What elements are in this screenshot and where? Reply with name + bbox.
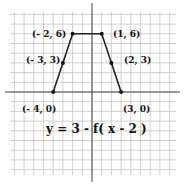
- point-label-neg4-0: (- 4, 0): [22, 104, 56, 115]
- point-label-neg3-3: (- 3, 3): [26, 55, 60, 66]
- point-label-3-0: (3, 0): [123, 104, 150, 115]
- point-label-1-6: (1, 6): [113, 29, 140, 40]
- point-label-2-3: (2, 3): [124, 55, 151, 66]
- point-label-neg2-6: (- 2, 6): [32, 29, 66, 40]
- coordinate-graph: (- 2, 6) (1, 6) (- 3, 3) (2, 3) (- 4, 0)…: [0, 0, 185, 185]
- equation-label: y = 3 - f( x - 2 ): [45, 122, 147, 136]
